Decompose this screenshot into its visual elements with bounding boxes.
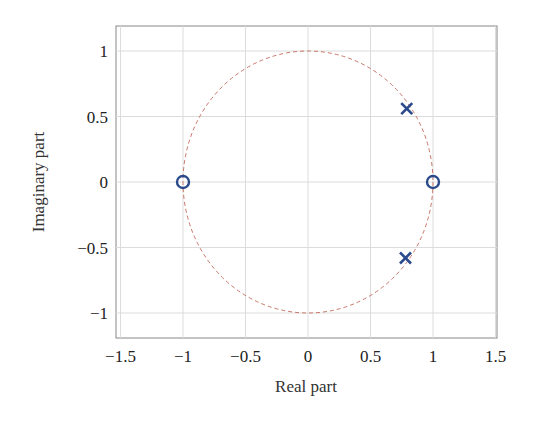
x-tick-label: 1	[429, 347, 438, 366]
y-tick-label: 0	[100, 173, 109, 192]
y-tick-label: 0.5	[87, 108, 108, 127]
x-axis-label: Real part	[275, 377, 337, 396]
x-tick-label: 1.5	[485, 347, 506, 366]
x-tick-label: 0.5	[360, 347, 381, 366]
x-tick-label: −1.5	[105, 347, 136, 366]
x-tick-label: −1	[174, 347, 192, 366]
y-axis-label: Imaginary part	[29, 131, 48, 232]
x-tick-label: −0.5	[230, 347, 261, 366]
y-tick-label: 1	[100, 42, 109, 61]
pole-zero-plot: −1.5−1−0.500.511.5 −1−0.500.51 Real part…	[0, 0, 539, 426]
y-tick-label: −1	[90, 304, 108, 323]
y-tick-label: −0.5	[77, 239, 108, 258]
x-axis-ticks: −1.5−1−0.500.511.5	[105, 347, 506, 366]
y-axis-ticks: −1−0.500.51	[77, 42, 108, 323]
x-tick-label: 0	[304, 347, 313, 366]
